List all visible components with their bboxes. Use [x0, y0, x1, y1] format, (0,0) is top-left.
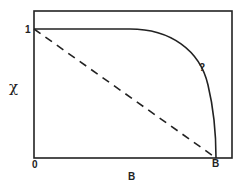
x-axis-label: B [128, 172, 135, 182]
y-tick-one: 1 [25, 25, 31, 35]
plot-frame [34, 11, 232, 158]
x-end-label: B [212, 159, 219, 169]
curve-annotation: ? [199, 63, 205, 73]
y-axis-label: χ [9, 80, 18, 95]
dashed-line [34, 29, 216, 158]
origin-label: 0 [32, 160, 38, 170]
